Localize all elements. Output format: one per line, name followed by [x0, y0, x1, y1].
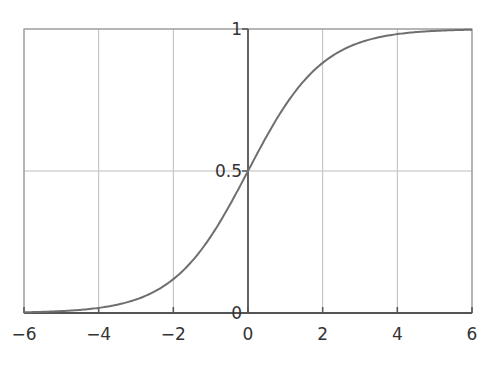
x-tick-labels: −6−4−20246 [11, 324, 477, 344]
x-tick-label: −4 [86, 324, 111, 344]
y-tick-label: 0 [231, 303, 242, 323]
x-tick-label: 6 [467, 324, 478, 344]
y-tick-labels: 00.51 [215, 19, 242, 323]
x-tick-label: −6 [11, 324, 36, 344]
y-tick-label: 0.5 [215, 161, 242, 181]
y-tick-label: 1 [231, 19, 242, 39]
sigmoid-chart: −6−4−20246 00.51 [0, 0, 492, 366]
x-tick-label: 4 [392, 324, 403, 344]
x-tick-label: 2 [317, 324, 328, 344]
x-tick-label: 0 [243, 324, 254, 344]
x-tick-label: −2 [161, 324, 186, 344]
